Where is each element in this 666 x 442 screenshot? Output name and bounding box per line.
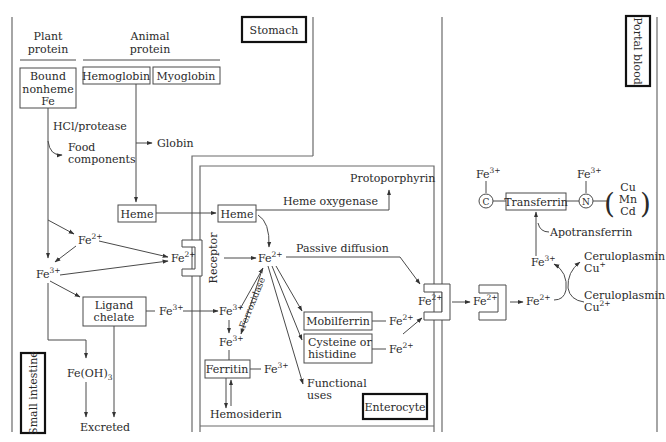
- fe-oh3-label: Fe(OH)3: [67, 367, 113, 382]
- passive-diffusion-label: Passive diffusion: [296, 242, 389, 255]
- protoporphyrin-label: Protoporphyrin: [350, 172, 435, 185]
- svg-text:Cu2+: Cu2+: [584, 299, 611, 314]
- hcl-protease-label: HCl/protease: [53, 120, 127, 133]
- globin-label: Globin: [157, 137, 194, 150]
- svg-text:Bound: Bound: [30, 70, 66, 83]
- mobilferrin-fe2-label: Fe2+: [389, 313, 414, 328]
- basolateral-fe2-label: Fe2+: [418, 293, 443, 308]
- heme-cell-box: Heme: [218, 205, 256, 222]
- iron-absorption-diagram: Stomach Portal blood Small intestine Ent…: [0, 0, 666, 442]
- svg-text:histidine: histidine: [308, 348, 356, 361]
- svg-text:N: N: [582, 197, 590, 207]
- ligand-chelate-box: Ligand chelate: [83, 297, 146, 326]
- svg-text:uses: uses: [307, 389, 332, 402]
- cysteine-fe2-label: Fe2+: [389, 341, 414, 356]
- svg-text:protein: protein: [130, 43, 170, 56]
- ligand-fe3-label: Fe3+: [159, 303, 184, 318]
- svg-text:Portal blood: Portal blood: [631, 17, 644, 85]
- svg-text:Stomach: Stomach: [250, 24, 299, 37]
- svg-text:Transferrin: Transferrin: [504, 196, 568, 209]
- transferrin-complex: Fe3+ C Transferrin Fe3+ N ( ) Cu Mn Cd: [476, 166, 651, 220]
- svg-text:Cu+: Cu+: [584, 260, 606, 275]
- myoglobin-box: Myoglobin: [153, 67, 220, 84]
- svg-text:Myoglobin: Myoglobin: [157, 70, 216, 83]
- mobilferrin-box: Mobilferrin: [304, 312, 372, 330]
- excreted-label: Excreted: [80, 421, 130, 434]
- svg-text:Enterocyte: Enterocyte: [364, 401, 425, 414]
- hemosiderin-label: Hemosiderin: [210, 408, 282, 421]
- cell-fe2-label: Fe2+: [258, 250, 283, 265]
- blood-fe3-label: Fe3+: [531, 254, 556, 269]
- cell-fe3-lower-label: Fe3+: [219, 334, 244, 349]
- ferritin-box: Ferritin: [205, 360, 250, 378]
- svg-text:): ): [640, 187, 651, 220]
- svg-text:Small intestine: Small intestine: [27, 351, 40, 435]
- svg-text:Heme: Heme: [220, 208, 253, 221]
- svg-text:(: (: [604, 187, 615, 220]
- animal-protein-header: Animal protein: [83, 30, 220, 60]
- bound-nonheme-fe-box: Bound nonheme Fe: [20, 68, 76, 108]
- svg-text:Animal: Animal: [129, 30, 170, 43]
- svg-text:Cd: Cd: [620, 205, 635, 218]
- svg-text:Heme: Heme: [120, 208, 153, 221]
- apotransferrin-label: Apotransferrin: [549, 226, 632, 239]
- enterocyte-label-box: Enterocyte: [363, 394, 427, 419]
- blood-receptor-fe2-label: Fe2+: [473, 293, 498, 308]
- blood-fe2-label: Fe2+: [526, 293, 551, 308]
- svg-text:protein: protein: [28, 43, 68, 56]
- svg-text:Hemoglobin: Hemoglobin: [82, 70, 150, 83]
- svg-text:Plant: Plant: [34, 30, 64, 43]
- cysteine-histidine-box: Cysteine or histidine: [304, 334, 372, 363]
- cell-fe3-upper-label: Fe3+: [219, 303, 244, 318]
- heme-lumen-box: Heme: [118, 205, 156, 222]
- svg-text:Ferritin: Ferritin: [206, 363, 249, 376]
- svg-text:Mobilferrin: Mobilferrin: [306, 315, 370, 328]
- svg-text:components: components: [68, 153, 136, 166]
- svg-text:Fe3+: Fe3+: [577, 166, 602, 181]
- svg-text:chelate: chelate: [94, 311, 135, 324]
- receptor-label: Receptor: [207, 232, 220, 284]
- portal-blood-label-box: Portal blood: [626, 16, 650, 86]
- svg-text:Fe3+: Fe3+: [476, 166, 501, 181]
- lumen-fe2-label: Fe2+: [78, 232, 103, 247]
- ferritin-fe3-label: Fe3+: [264, 361, 289, 376]
- stomach-label-box: Stomach: [242, 17, 306, 42]
- hemoglobin-box: Hemoglobin: [82, 67, 150, 84]
- small-intestine-label-box: Small intestine: [21, 351, 45, 435]
- heme-oxygenase-label: Heme oxygenase: [283, 195, 378, 208]
- svg-text:C: C: [483, 197, 490, 207]
- plant-protein-header: Plant protein: [20, 30, 76, 60]
- lumen-fe3-label: Fe3+: [36, 266, 61, 281]
- svg-text:Fe: Fe: [41, 95, 55, 108]
